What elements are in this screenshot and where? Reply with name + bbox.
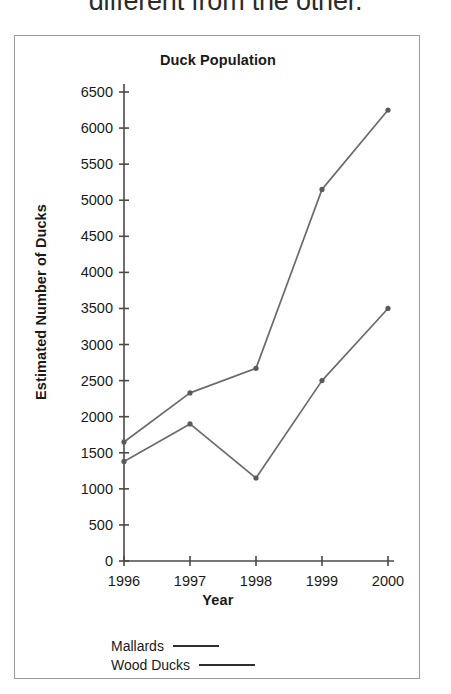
line-chart-plot: 0500100015002000250030003500400045005000… (15, 36, 421, 636)
line-swatch-icon (199, 664, 255, 666)
x-tick-label: 1998 (240, 573, 272, 589)
x-tick-label: 1997 (174, 573, 206, 589)
data-point (253, 366, 258, 371)
chart-container: Duck Population Estimated Number of Duck… (14, 35, 420, 679)
page-header-text: different from the other. (0, 0, 451, 17)
x-tick-label: 1999 (306, 573, 338, 589)
y-tick-label: 2500 (81, 373, 113, 389)
y-tick-label: 2000 (81, 409, 113, 425)
data-point (121, 439, 126, 444)
data-series-group (121, 107, 390, 480)
y-tick-label: 3000 (81, 337, 113, 353)
legend-label: Wood Ducks (111, 657, 190, 673)
y-tick-label: 1000 (81, 481, 113, 497)
data-point (385, 306, 390, 311)
legend-item: Mallards (111, 636, 255, 655)
data-point (385, 107, 390, 112)
x-tick-label: 1996 (108, 573, 140, 589)
chart-legend: Mallards Wood Ducks (111, 636, 255, 674)
legend-label: Mallards (111, 638, 164, 654)
y-tick-label: 5000 (81, 192, 113, 208)
y-tick-label: 1500 (81, 445, 113, 461)
y-tick-label: 4500 (81, 228, 113, 244)
x-tick-label: 2000 (372, 573, 404, 589)
y-tick-label: 3500 (81, 300, 113, 316)
data-point (187, 421, 192, 426)
data-point (121, 459, 126, 464)
data-point (253, 475, 258, 480)
y-tick-label: 0 (105, 553, 113, 569)
y-tick-label: 6500 (81, 84, 113, 100)
y-tick-label: 5500 (81, 156, 113, 172)
y-tick-label: 500 (89, 517, 113, 533)
y-tick-label: 6000 (81, 120, 113, 136)
line-swatch-icon (173, 645, 219, 647)
legend-item: Wood Ducks (111, 655, 255, 674)
series-line-wood-ducks (124, 308, 388, 478)
series-line-mallards (124, 110, 388, 442)
y-axis-tick-group: 0500100015002000250030003500400045005000… (81, 84, 129, 569)
data-point (319, 187, 324, 192)
data-point (319, 378, 324, 383)
data-point (187, 390, 192, 395)
y-tick-label: 4000 (81, 264, 113, 280)
